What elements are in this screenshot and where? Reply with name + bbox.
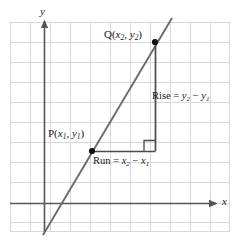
point-Q-prefix: Q( bbox=[104, 28, 116, 40]
slope-diagram-figure: y x Q(x2, y2) P(x1, y1) Rise = y2 − y1 R… bbox=[0, 0, 233, 242]
point-Q-label: Q(x2, y2) bbox=[104, 29, 142, 40]
run-annotation-label: Run = x2 − x1 bbox=[93, 156, 149, 167]
point-P-prefix: P( bbox=[48, 127, 58, 139]
grid-lines bbox=[10, 22, 230, 232]
point-P-dot bbox=[89, 148, 95, 154]
rise-minus-sign: − bbox=[190, 90, 201, 101]
run-term2-sub: 1 bbox=[146, 160, 150, 168]
point-Q-dot bbox=[152, 39, 158, 45]
rise-annotation-label: Rise = y2 − y1 bbox=[152, 91, 209, 102]
rise-prefix: Rise = bbox=[152, 90, 182, 101]
run-minus-sign: − bbox=[130, 155, 141, 166]
point-P-label: P(x1, y1) bbox=[48, 128, 84, 139]
y-axis-label: y bbox=[40, 6, 45, 17]
point-Q-suffix: ) bbox=[138, 28, 142, 40]
point-P-suffix: ) bbox=[81, 127, 85, 139]
x-axis-label: x bbox=[222, 196, 227, 207]
run-prefix: Run = bbox=[93, 155, 122, 166]
rise-term2-sub: 1 bbox=[206, 95, 210, 103]
